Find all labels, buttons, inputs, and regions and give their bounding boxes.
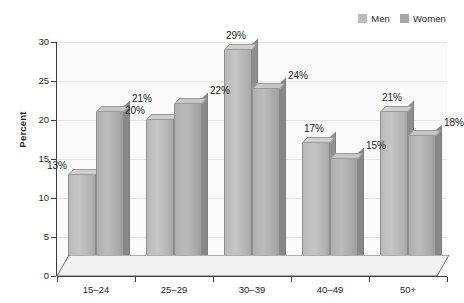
bar-front-face (380, 112, 408, 276)
bar-side-face (280, 77, 286, 270)
x-axis-tick (213, 277, 214, 282)
bar-front-face (330, 159, 358, 276)
bar-women-40–49 (330, 42, 358, 276)
x-axis-tick (447, 277, 448, 282)
y-axis-tick (51, 42, 56, 43)
x-axis-tick-label: 50+ (373, 285, 443, 295)
x-axis-tick-label: 25–29 (139, 285, 209, 295)
x-axis-tick-label: 30–39 (217, 285, 287, 295)
x-axis-tick (135, 277, 136, 282)
x-axis-tick-label: 40–49 (295, 285, 365, 295)
value-label-women-40–49: 15% (366, 141, 386, 151)
legend-item-women: Women (400, 14, 446, 24)
x-axis-tick-label: 15–24 (61, 285, 131, 295)
y-axis-tick-label: 10 (23, 193, 49, 203)
value-label-men-50+: 21% (382, 93, 402, 103)
y-axis-tick (51, 276, 56, 277)
value-label-women-15–24: 21% (132, 94, 152, 104)
bar-front-face (252, 89, 280, 276)
value-label-men-25–29: 20% (125, 106, 145, 116)
y-axis-tick-label: 30 (23, 37, 49, 47)
bar-side-face (202, 93, 208, 270)
bar-women-50+ (408, 42, 436, 276)
y-axis-line (56, 42, 57, 276)
bar-top-face (252, 83, 285, 89)
y-axis-tick (51, 159, 56, 160)
value-label-women-25–29: 22% (210, 86, 230, 96)
bar-side-face (358, 148, 364, 270)
bar-front-face (408, 136, 436, 276)
x-axis-tick (57, 277, 58, 282)
bar-front-face (146, 120, 174, 276)
bar-top-face (174, 98, 207, 104)
plot-area: 13%21%20%22%29%24%17%15%21%18% (57, 42, 447, 276)
bar-men-25–29 (146, 42, 174, 276)
bar-front-face (96, 112, 124, 276)
value-label-women-30–39: 24% (288, 71, 308, 81)
legend-label-women: Women (413, 14, 446, 24)
value-label-men-30–39: 29% (226, 31, 246, 41)
y-axis-tick (51, 120, 56, 121)
y-axis-tick (51, 237, 56, 238)
x-axis-tick (369, 277, 370, 282)
bar-front-face (302, 143, 330, 276)
bar-women-15–24 (96, 42, 124, 276)
legend-swatch-women (400, 14, 409, 23)
y-axis-title: Percent (17, 100, 28, 160)
bar-men-50+ (380, 42, 408, 276)
y-axis-tick (51, 81, 56, 82)
bar-women-30–39 (252, 42, 280, 276)
x-axis-tick (291, 277, 292, 282)
bar-front-face (68, 175, 96, 276)
y-axis-tick-label: 25 (23, 76, 49, 86)
legend-item-men: Men (358, 14, 390, 24)
bar-top-face (408, 130, 441, 136)
chart-legend: Men Women (358, 14, 446, 24)
legend-swatch-men (358, 14, 367, 23)
bar-side-face (436, 124, 442, 270)
value-label-men-40–49: 17% (304, 124, 324, 134)
value-label-women-50+: 18% (444, 118, 464, 128)
y-axis-tick-label: 5 (23, 232, 49, 242)
bar-women-25–29 (174, 42, 202, 276)
bar-side-face (124, 101, 130, 270)
bar-men-30–39 (224, 42, 252, 276)
bar-front-face (224, 50, 252, 276)
value-label-men-15–24: 13% (47, 161, 67, 171)
bar-top-face (330, 153, 363, 159)
legend-label-men: Men (371, 14, 390, 24)
bar-front-face (174, 104, 202, 276)
y-axis-tick-label: 0 (23, 271, 49, 281)
x-axis-line (57, 276, 447, 277)
y-axis-tick (51, 198, 56, 199)
bar-men-15–24 (68, 42, 96, 276)
